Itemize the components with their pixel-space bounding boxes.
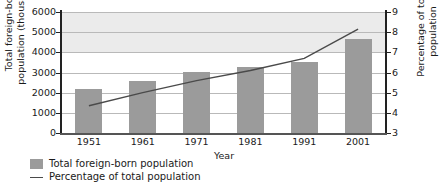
y-axis-left-tick [56, 32, 60, 33]
y-axis-left-title: Total foreign-born population (thousands… [3, 0, 26, 89]
y-axis-left-tick-label: 2000 [0, 88, 56, 98]
line-series [62, 12, 385, 133]
y-axis-right-tick [387, 93, 391, 94]
y-axis-right-tick [387, 73, 391, 74]
legend-label-bars: Total foreign-born population [49, 157, 193, 170]
y-axis-right-tick-label: 3 [392, 128, 408, 138]
y-axis-left-tick [56, 113, 60, 114]
y-axis-right-tick-label: 4 [392, 108, 408, 118]
y-axis-left-title-line1: Total foreign-born [3, 0, 14, 71]
y-axis-left-title-line2: population (thousands) [14, 0, 25, 85]
y-axis-right-tick [387, 113, 391, 114]
y-axis-right-tick-label: 8 [392, 27, 408, 37]
y-axis-right-tick-label: 7 [392, 47, 408, 57]
x-axis-tick-label: 1991 [279, 137, 329, 147]
y-axis-left-tick [56, 52, 60, 53]
x-axis-tick-label: 1951 [64, 137, 114, 147]
legend-item-bars: Total foreign-born population [30, 157, 201, 170]
y-axis-left-tick [56, 133, 60, 134]
legend-label-line: Percentage of total population [49, 170, 201, 183]
x-axis-tick-label: 1961 [118, 137, 168, 147]
x-axis-tick-label: 2001 [333, 137, 383, 147]
chart-legend: Total foreign-born population Percentage… [30, 157, 201, 183]
y-axis-right-tick [387, 12, 391, 13]
bar-swatch-icon [30, 159, 43, 169]
y-axis-right-tick-label: 6 [392, 68, 408, 78]
x-axis-tick-label: 1971 [172, 137, 222, 147]
y-axis-left [60, 10, 62, 135]
y-axis-left-tick-label: 0 [0, 128, 56, 138]
y-axis-right-tick [387, 52, 391, 53]
x-axis-tick-label: 1981 [225, 137, 275, 147]
y-axis-left-tick [56, 93, 60, 94]
y-axis-left-tick-label: 1000 [0, 108, 56, 118]
y-axis-right-title: Percentage of total population [415, 0, 438, 91]
x-axis [60, 133, 387, 135]
y-axis-right-tick [387, 32, 391, 33]
y-axis-left-tick [56, 12, 60, 13]
y-axis-right-tick-label: 9 [392, 7, 408, 17]
y-axis-right-tick [387, 133, 391, 134]
percentage-line [89, 29, 358, 106]
y-axis-left-tick [56, 73, 60, 74]
y-axis-right-tick-label: 5 [392, 88, 408, 98]
legend-item-line: Percentage of total population [30, 170, 201, 183]
chart-container: 0100020003000400050006000 3456789 195119… [0, 0, 448, 184]
line-swatch-icon [30, 172, 43, 182]
plot-area [62, 12, 385, 133]
